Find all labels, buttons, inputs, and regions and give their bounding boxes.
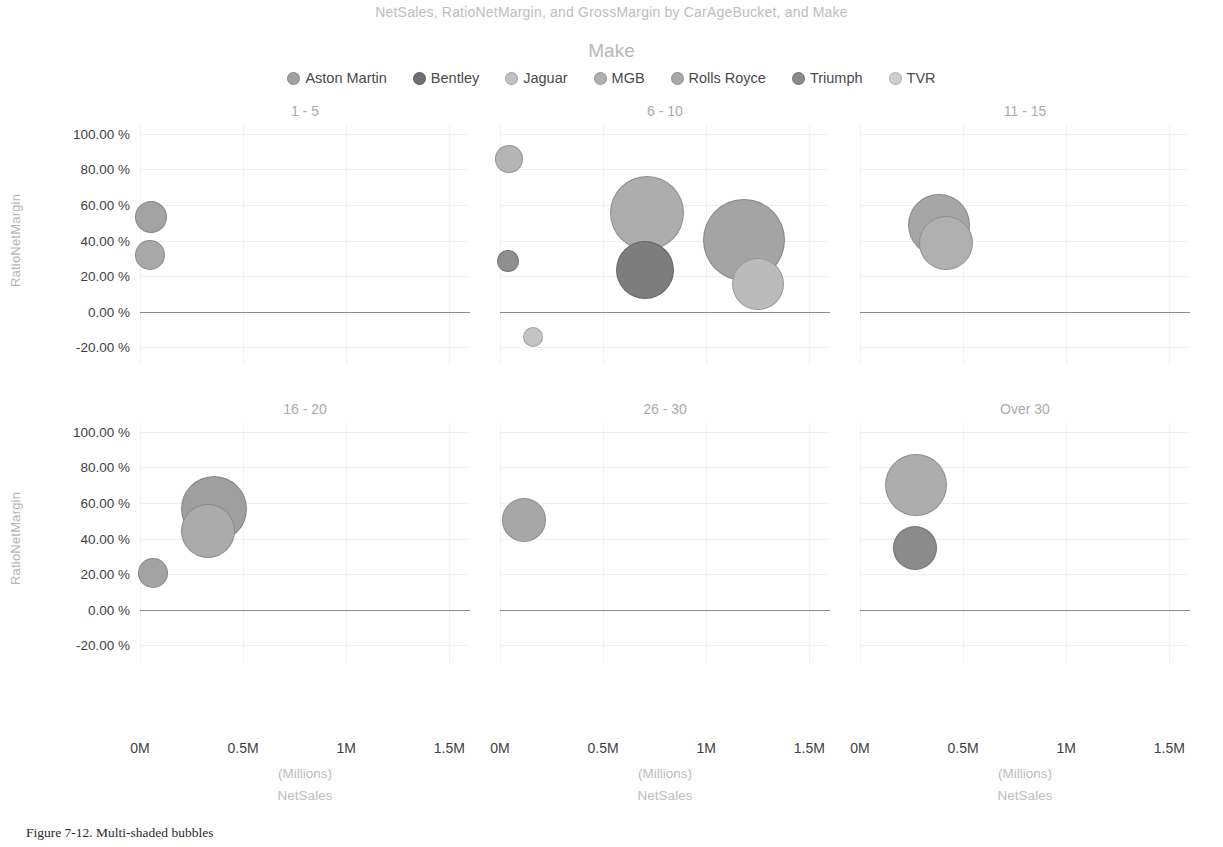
facet-panel: 26 - 30 bbox=[500, 423, 830, 663]
gridline-horizontal bbox=[860, 347, 1190, 348]
legend-swatch-icon bbox=[671, 72, 684, 85]
legend-item[interactable]: Aston Martin bbox=[287, 70, 386, 86]
panel-title: 11 - 15 bbox=[860, 103, 1190, 119]
gridline-horizontal bbox=[140, 134, 470, 135]
data-bubble[interactable] bbox=[523, 327, 543, 347]
gridline-vertical bbox=[346, 423, 347, 663]
x-axis-unit-label: (Millions) bbox=[860, 766, 1190, 781]
data-bubble[interactable] bbox=[893, 526, 937, 570]
legend-swatch-icon bbox=[287, 72, 300, 85]
panel-row: RatioNetMargin100.00 %80.00 %60.00 %40.0… bbox=[0, 398, 1223, 695]
legend-swatch-icon bbox=[792, 72, 805, 85]
gridline-horizontal bbox=[860, 432, 1190, 433]
legend-item-label: Rolls Royce bbox=[689, 70, 766, 86]
legend-item[interactable]: Bentley bbox=[413, 70, 479, 86]
panel-title: 1 - 5 bbox=[140, 103, 470, 119]
gridline-vertical bbox=[809, 423, 810, 663]
zero-baseline bbox=[860, 312, 1190, 313]
y-tick-label: 20.00 % bbox=[80, 567, 130, 582]
gridline-vertical bbox=[449, 125, 450, 365]
gridline-vertical bbox=[706, 423, 707, 663]
gridline-horizontal bbox=[860, 574, 1190, 575]
gridline-vertical bbox=[500, 423, 501, 663]
legend-item-label: Triumph bbox=[810, 70, 863, 86]
gridline-horizontal bbox=[140, 432, 470, 433]
gridline-vertical bbox=[449, 423, 450, 663]
gridline-vertical bbox=[346, 125, 347, 365]
y-axis-ticks: 100.00 %80.00 %60.00 %40.00 %20.00 %0.00… bbox=[24, 125, 134, 365]
legend-item[interactable]: Triumph bbox=[792, 70, 863, 86]
legend-item[interactable]: Jaguar bbox=[505, 70, 567, 86]
gridline-horizontal bbox=[860, 134, 1190, 135]
facet-panel: 16 - 20 bbox=[140, 423, 470, 663]
gridline-horizontal bbox=[500, 432, 830, 433]
y-tick-label: 80.00 % bbox=[80, 162, 130, 177]
x-tick-label: 1M bbox=[337, 740, 356, 756]
y-tick-label: -20.00 % bbox=[76, 340, 130, 355]
x-axis: 0M0.5M1M1.5M(Millions)NetSales bbox=[860, 740, 1190, 820]
y-axis-ticks: 100.00 %80.00 %60.00 %40.00 %20.00 %0.00… bbox=[24, 423, 134, 663]
y-tick-label: 60.00 % bbox=[80, 496, 130, 511]
gridline-vertical bbox=[860, 125, 861, 365]
x-axis-title: NetSales bbox=[140, 788, 470, 803]
gridline-vertical bbox=[140, 423, 141, 663]
gridline-vertical bbox=[243, 125, 244, 365]
data-bubble[interactable] bbox=[616, 241, 674, 299]
gridline-horizontal bbox=[500, 645, 830, 646]
legend-item[interactable]: MGB bbox=[594, 70, 645, 86]
gridline-horizontal bbox=[140, 645, 470, 646]
legend-item[interactable]: Rolls Royce bbox=[671, 70, 766, 86]
y-tick-label: -20.00 % bbox=[76, 638, 130, 653]
facet-panel: Over 30 bbox=[860, 423, 1190, 663]
data-bubble[interactable] bbox=[138, 558, 168, 588]
zero-baseline bbox=[140, 312, 470, 313]
data-bubble[interactable] bbox=[497, 250, 519, 272]
data-bubble[interactable] bbox=[495, 145, 523, 173]
gridline-horizontal bbox=[860, 241, 1190, 242]
legend-item[interactable]: TVR bbox=[889, 70, 936, 86]
legend-swatch-icon bbox=[889, 72, 902, 85]
panel-plot-canvas bbox=[500, 423, 830, 663]
panel-title: Over 30 bbox=[860, 401, 1190, 417]
y-tick-label: 20.00 % bbox=[80, 269, 130, 284]
gridline-horizontal bbox=[860, 169, 1190, 170]
x-tick-label: 0M bbox=[130, 740, 149, 756]
data-bubble[interactable] bbox=[135, 240, 165, 270]
y-tick-label: 80.00 % bbox=[80, 460, 130, 475]
legend-title: Make bbox=[0, 40, 1223, 62]
panel-plot-canvas bbox=[860, 125, 1190, 365]
legend-item-label: Aston Martin bbox=[305, 70, 386, 86]
y-tick-label: 0.00 % bbox=[88, 304, 130, 319]
x-tick-label: 1.5M bbox=[1154, 740, 1185, 756]
data-bubble[interactable] bbox=[181, 504, 235, 558]
gridline-vertical bbox=[603, 423, 604, 663]
data-bubble[interactable] bbox=[732, 258, 784, 310]
x-tick-label: 0.5M bbox=[588, 740, 619, 756]
legend-swatch-icon bbox=[413, 72, 426, 85]
gridline-horizontal bbox=[140, 467, 470, 468]
facet-panel: 11 - 15 bbox=[860, 125, 1190, 365]
plot-matrix: RatioNetMargin100.00 %80.00 %60.00 %40.0… bbox=[0, 100, 1223, 740]
x-tick-label: 1.5M bbox=[794, 740, 825, 756]
x-tick-label: 1.5M bbox=[434, 740, 465, 756]
data-bubble[interactable] bbox=[885, 454, 947, 516]
gridline-horizontal bbox=[500, 347, 830, 348]
x-tick-label: 0M bbox=[490, 740, 509, 756]
facet-panel: 1 - 5 bbox=[140, 125, 470, 365]
data-bubble[interactable] bbox=[502, 498, 546, 542]
gridline-vertical bbox=[809, 125, 810, 365]
gridline-horizontal bbox=[140, 347, 470, 348]
x-axis: 0M0.5M1M1.5M(Millions)NetSales bbox=[140, 740, 470, 820]
gridline-vertical bbox=[1169, 125, 1170, 365]
y-axis-title: RatioNetMargin bbox=[8, 140, 24, 340]
legend-swatch-icon bbox=[594, 72, 607, 85]
panel-plot-canvas bbox=[500, 125, 830, 365]
gridline-horizontal bbox=[500, 467, 830, 468]
legend-item-label: MGB bbox=[612, 70, 645, 86]
panel-title: 26 - 30 bbox=[500, 401, 830, 417]
panel-row: RatioNetMargin100.00 %80.00 %60.00 %40.0… bbox=[0, 100, 1223, 397]
data-bubble[interactable] bbox=[610, 176, 684, 250]
data-bubble[interactable] bbox=[919, 216, 973, 270]
figure-caption: Figure 7-12. Multi-shaded bubbles bbox=[26, 825, 213, 841]
data-bubble[interactable] bbox=[135, 201, 167, 233]
